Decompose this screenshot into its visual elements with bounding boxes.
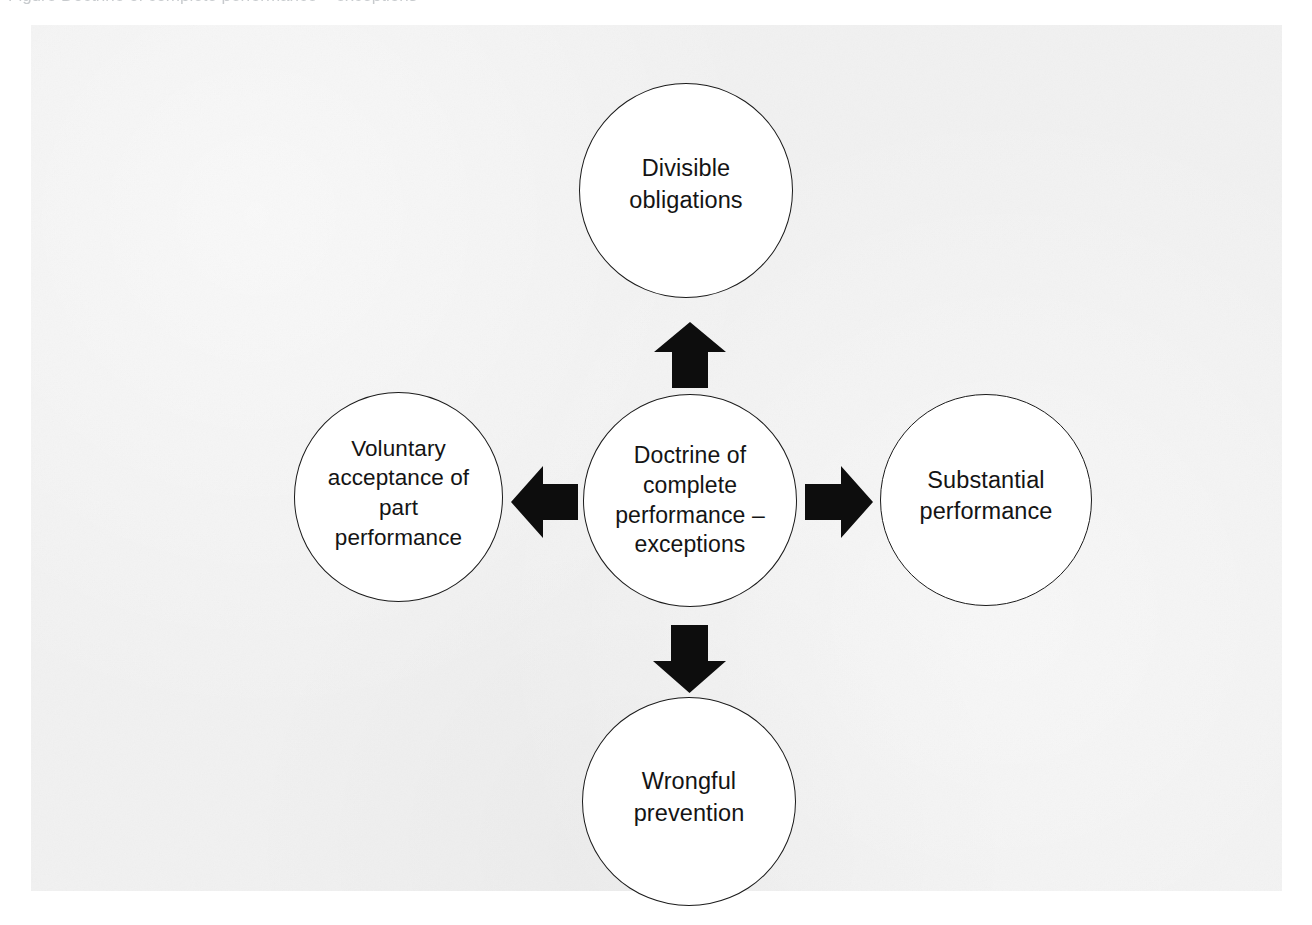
- node-label-divisible-obligations: Divisible obligations: [615, 153, 756, 216]
- node-substantial-performance[interactable]: Substantial performance: [880, 394, 1092, 606]
- right-arrow-icon: [805, 466, 873, 538]
- down-arrow-icon: [653, 625, 726, 693]
- node-label-wrongful-prevention: Wrongful prevention: [620, 766, 759, 829]
- node-wrongful-prevention[interactable]: Wrongful prevention: [582, 697, 796, 906]
- diagram-panel: Divisible obligations Voluntary acceptan…: [31, 25, 1282, 891]
- figure-caption-strip: Figure Doctrine of complete performance …: [0, 0, 1312, 16]
- figure-caption-text: Figure Doctrine of complete performance …: [8, 0, 417, 6]
- node-label-voluntary-acceptance-of-part-performance: Voluntary acceptance of part performance: [314, 434, 483, 553]
- node-divisible-obligations[interactable]: Divisible obligations: [579, 83, 793, 298]
- up-arrow-icon: [654, 322, 726, 388]
- node-label-doctrine-of-complete-performance-exceptions: Doctrine of complete performance – excep…: [601, 441, 779, 561]
- figure-page: Figure Doctrine of complete performance …: [0, 0, 1312, 925]
- left-arrow-icon: [511, 466, 578, 538]
- node-label-substantial-performance: Substantial performance: [905, 465, 1066, 528]
- node-voluntary-acceptance-of-part-performance[interactable]: Voluntary acceptance of part performance: [294, 392, 503, 602]
- node-doctrine-of-complete-performance-exceptions[interactable]: Doctrine of complete performance – excep…: [583, 394, 797, 607]
